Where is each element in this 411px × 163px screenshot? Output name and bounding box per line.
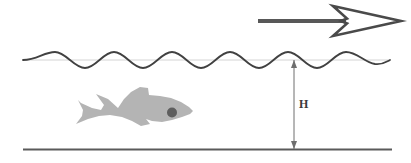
depth-label: H	[299, 98, 308, 110]
wave-depth-diagram: H	[0, 0, 411, 163]
diagram-canvas	[0, 0, 411, 163]
wave-direction-arrow-head-icon	[333, 6, 401, 36]
dimension-arrowhead-bottom-icon	[291, 141, 297, 149]
fish-body-shape	[76, 87, 193, 126]
fish-eye-icon	[167, 108, 177, 118]
wave-direction-arrow-shaft	[258, 19, 346, 23]
wave-height-dimension	[291, 60, 297, 149]
fish-silhouette	[76, 87, 193, 126]
dimension-arrowhead-top-icon	[291, 60, 297, 68]
